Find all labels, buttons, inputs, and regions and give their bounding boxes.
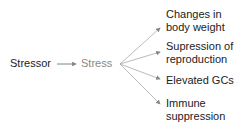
stress-label: Stress xyxy=(81,57,112,70)
outcome-line: Elevated GCs xyxy=(166,74,234,87)
arrow-to-gcs xyxy=(120,64,160,79)
outcome-line: Immune xyxy=(166,97,225,110)
outcome-line: reproduction xyxy=(166,53,233,66)
arrow-to-body-weight xyxy=(120,28,160,64)
outcome-line: body weight xyxy=(166,21,225,34)
outcome-line: Changes in xyxy=(166,8,225,21)
outcome-body-weight: Changes in body weight xyxy=(166,8,225,34)
outcome-gcs: Elevated GCs xyxy=(166,74,234,87)
outcome-reproduction: Supression of reproduction xyxy=(166,40,233,66)
arrow-to-immune xyxy=(120,64,160,104)
arrow-to-reproduction xyxy=(120,52,160,64)
outcome-immune: Immune suppression xyxy=(166,97,225,123)
stressor-label: Stressor xyxy=(10,57,51,70)
outcome-line: Supression of xyxy=(166,40,233,53)
outcome-line: suppression xyxy=(166,110,225,123)
